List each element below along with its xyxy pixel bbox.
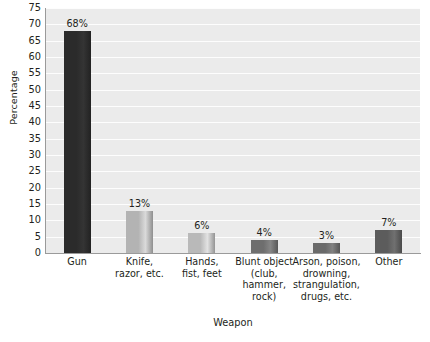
y-axis-tick-label: 60 <box>16 52 41 62</box>
bar-group: 4% <box>233 8 295 253</box>
bar-group: 6% <box>171 8 233 253</box>
y-axis-tick-label: 15 <box>16 199 41 209</box>
bar-value-label: 13% <box>129 199 150 209</box>
y-axis-tick-label: 35 <box>16 134 41 144</box>
y-axis-tick-label: 40 <box>16 117 41 127</box>
x-axis-tick-label: Other <box>352 256 426 268</box>
bar[interactable] <box>126 211 153 253</box>
bar-group: 7% <box>358 8 420 253</box>
x-axis-title: Weapon <box>46 317 420 328</box>
y-axis-tick-label: 65 <box>16 36 41 46</box>
y-axis-tick-label: 50 <box>16 85 41 95</box>
y-axis-tick-label: 20 <box>16 183 41 193</box>
y-axis-tick-label: 55 <box>16 68 41 78</box>
bar[interactable] <box>251 240 278 253</box>
y-axis-tick-labels: 757065605550454035302520151050 <box>16 0 41 342</box>
bar[interactable] <box>313 243 340 253</box>
y-axis-tick-label: 75 <box>16 3 41 13</box>
bar-group: 13% <box>108 8 170 253</box>
bar[interactable] <box>188 233 215 253</box>
bar-value-label: 68% <box>66 19 87 29</box>
y-axis-tick-label: 10 <box>16 215 41 225</box>
x-axis-line <box>45 253 421 254</box>
bar[interactable] <box>64 31 91 253</box>
bar-value-label: 7% <box>381 218 396 228</box>
x-axis-tick-labels: GunKnife,razor, etc.Hands,fist, feetBlun… <box>46 256 420 316</box>
y-axis-tick-label: 0 <box>16 248 41 258</box>
bar-value-label: 4% <box>257 228 272 238</box>
y-axis-line <box>45 8 46 254</box>
y-axis-tick-label: 5 <box>16 232 41 242</box>
bar[interactable] <box>375 230 402 253</box>
plot-area: 68%13%6%4%3%7% <box>46 8 420 253</box>
bar-group: 68% <box>46 8 108 253</box>
bar-value-label: 6% <box>194 221 209 231</box>
bar-chart: Percentage 75706560555045403530252015105… <box>0 0 430 342</box>
y-axis-tick-label: 25 <box>16 166 41 176</box>
y-axis-tick-label: 30 <box>16 150 41 160</box>
bar-group: 3% <box>295 8 357 253</box>
bar-value-label: 3% <box>319 231 334 241</box>
y-axis-tick-label: 45 <box>16 101 41 111</box>
y-axis-tick-label: 70 <box>16 19 41 29</box>
